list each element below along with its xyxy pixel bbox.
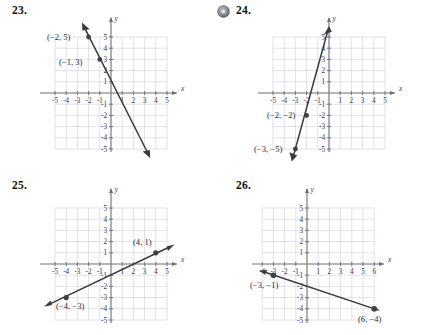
x-tick-label: 4 [154,97,158,105]
y-axis-label: y [114,185,119,194]
y-tick-label: 1 [299,249,303,257]
x-tick-label: -4 [281,97,287,105]
point-marker [97,57,102,62]
y-tick-labels: 5 4 3 2 1 -1 -2 -3 -4 -5 [297,205,303,325]
x-tick-label: -3 [292,97,298,105]
y-tick-label: -5 [101,317,107,325]
x-tick-label: 1 [316,268,320,276]
plotted-line [259,270,380,311]
y-tick-label: 3 [103,56,107,64]
y-tick-label: 4 [299,216,303,224]
point-label: (−2, 5) [47,32,71,42]
x-tick-label: 1 [338,97,342,105]
x-tick-label: -4 [63,268,69,276]
y-tick-labels: 5 4 3 2 1 -1 -2 -3 -4 -5 [101,205,107,325]
point-marker [86,35,91,40]
y-tick-label: -3 [101,123,107,131]
y-tick-label: 3 [321,56,325,64]
y-tick-label: -1 [297,272,303,280]
x-tick-label: 4 [154,268,158,276]
x-tick-label: -5 [52,97,58,105]
point-label: (−4, −3) [56,301,84,311]
x-tick-label: 5 [383,97,387,105]
y-tick-label: 5 [299,205,303,213]
y-tick-label: -3 [101,294,107,302]
point-marker [64,295,69,300]
x-axis-label: x [398,84,403,93]
y-tick-label: 1 [321,78,325,86]
x-tick-label: 5 [361,268,365,276]
problem-25-panel: 25. [0,168,211,335]
x-tick-label: -2 [282,268,288,276]
x-axis-label: x [180,255,185,264]
y-tick-label: -4 [319,134,325,142]
x-tick-label: 2 [132,268,136,276]
x-tick-label: 4 [350,268,354,276]
y-axis-label: y [114,14,119,23]
x-tick-label: 3 [143,268,147,276]
problem-26-graph: -4 -3 -2 -1 1 2 3 4 5 6 5 4 3 2 1 -1 -2 … [212,168,423,335]
y-tick-label: -5 [319,146,325,154]
x-tick-label: 6 [372,268,376,276]
y-tick-label: 5 [103,205,107,213]
point-marker [293,147,298,152]
x-tick-label: 2 [350,97,354,105]
point-label: (−1, 3) [59,57,83,67]
x-tick-label: 3 [143,97,147,105]
y-tick-label: -2 [101,283,107,291]
x-tick-label: 5 [165,97,169,105]
y-tick-label: 2 [103,238,107,246]
x-tick-label: 4 [372,97,376,105]
y-tick-label: 1 [103,78,107,86]
y-tick-label: 1 [103,249,107,257]
y-tick-label: -5 [297,317,303,325]
y-tick-labels: 5 4 3 2 1 -1 -2 -3 -4 -5 [101,34,107,154]
x-tick-label: -3 [74,268,80,276]
x-tick-label: -2 [86,268,92,276]
y-tick-label: -2 [319,112,325,120]
x-tick-labels: -4 -3 -2 -1 1 2 3 4 5 6 [259,268,376,276]
x-axis-label: x [387,255,392,264]
y-tick-label: -2 [101,112,107,120]
point-marker [153,250,158,255]
y-tick-label: -4 [297,305,303,313]
y-tick-label: 4 [103,45,107,53]
y-tick-label: 2 [321,67,325,75]
x-tick-label: -2 [86,97,92,105]
x-tick-label: 5 [165,268,169,276]
x-tick-label: -5 [52,268,58,276]
point-marker [371,306,377,312]
x-tick-label: -3 [74,97,80,105]
y-tick-label: 2 [299,238,303,246]
y-tick-label: -1 [101,101,107,109]
y-tick-label: -5 [101,146,107,154]
y-tick-label: 3 [299,227,303,235]
point-marker [304,113,309,118]
problem-24-panel: 24. [212,0,423,167]
y-tick-label: -3 [319,123,325,131]
y-tick-label: -1 [319,101,325,109]
x-tick-label: -5 [270,97,276,105]
point-label: (−3, −5) [254,144,282,154]
y-tick-label: -4 [101,305,107,313]
problem-25-graph: -5 -4 -3 -2 -1 1 2 3 4 5 5 4 3 2 1 -1 -2… [0,168,211,335]
problem-23-panel: 23. [0,0,211,167]
y-tick-label: 5 [103,34,107,42]
y-tick-label: 4 [103,216,107,224]
problem-26-panel: 26. [212,168,423,335]
x-tick-label: 2 [132,97,136,105]
plotted-line [290,26,332,161]
x-axis-label: x [180,84,185,93]
point-marker [271,272,277,278]
y-tick-label: -4 [101,134,107,142]
problem-24-graph: -5 -4 -3 -2 -1 1 2 3 4 5 5 4 3 2 1 -1 -2… [212,0,423,167]
point-label: (−2, −2) [267,110,295,120]
x-tick-label: 2 [328,268,332,276]
x-tick-label: 3 [339,268,343,276]
x-tick-label: -4 [63,97,69,105]
problem-23-graph: -5 -4 -3 -2 -1 1 2 3 4 5 5 4 3 2 1 -1 -2… [0,0,211,167]
x-tick-label: 3 [361,97,365,105]
point-label: (−3, −1) [250,280,278,290]
y-axis-label: y [332,14,337,23]
point-label: (4, 1) [133,237,152,247]
